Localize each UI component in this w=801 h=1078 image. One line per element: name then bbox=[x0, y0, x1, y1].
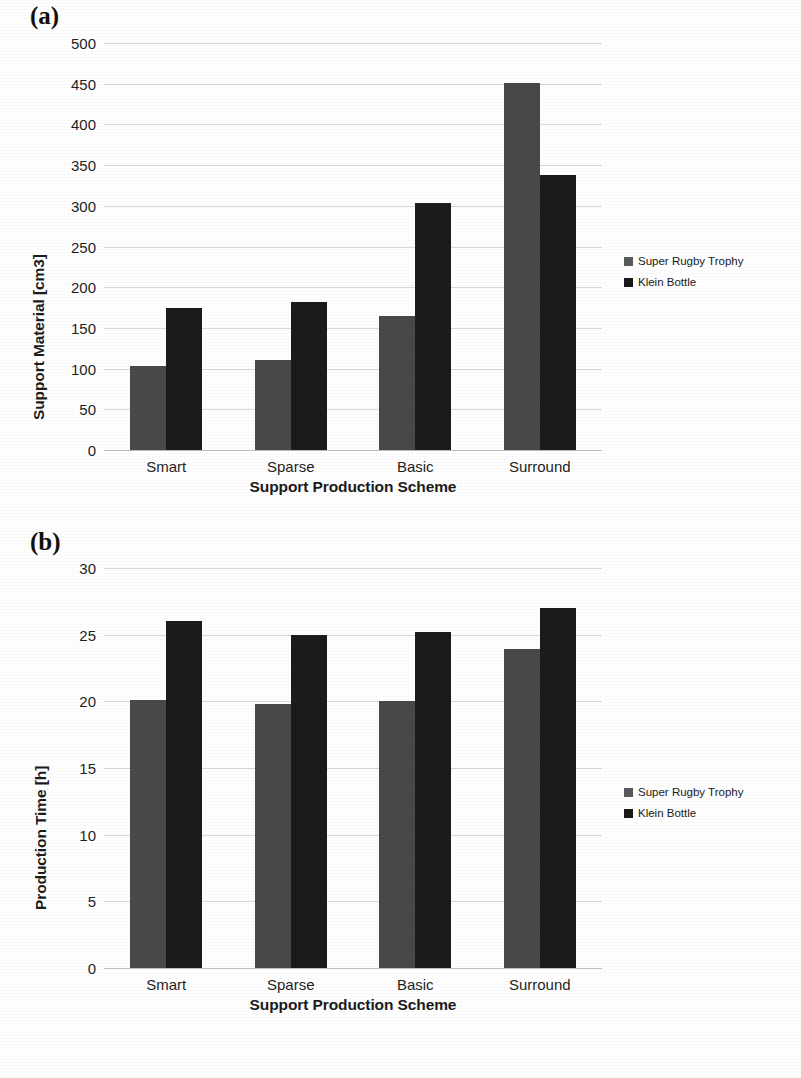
bar bbox=[166, 621, 202, 968]
y-tick-label: 150 bbox=[52, 319, 96, 336]
legend-label: Super Rugby Trophy bbox=[638, 253, 743, 270]
panel-b-x-axis-title: Support Production Scheme bbox=[104, 996, 602, 1014]
x-tick-label: Smart bbox=[104, 976, 229, 993]
panel-b-plot-area bbox=[104, 568, 602, 968]
panel-a-y-axis-title: Support Material [cm3] bbox=[30, 254, 48, 420]
bar bbox=[291, 302, 327, 450]
legend-label: Klein Bottle bbox=[638, 805, 696, 822]
y-tick-label: 50 bbox=[52, 401, 96, 418]
y-tick-label: 250 bbox=[52, 238, 96, 255]
panel-b-y-axis-ticks: 051015202530 bbox=[56, 520, 96, 521]
bar bbox=[415, 203, 451, 450]
legend-item: Klein Bottle bbox=[624, 274, 743, 291]
y-tick-label: 300 bbox=[52, 197, 96, 214]
legend-swatch-icon bbox=[624, 788, 633, 797]
x-axis-line bbox=[104, 450, 602, 451]
bar bbox=[130, 700, 166, 968]
panel-a-legend: Super Rugby TrophyKlein Bottle bbox=[624, 253, 743, 295]
y-tick-label: 20 bbox=[56, 693, 96, 710]
legend-item: Klein Bottle bbox=[624, 805, 743, 822]
panel-a-x-axis-title: Support Production Scheme bbox=[104, 478, 602, 496]
panel-b: (b) Production Time [h] 051015202530 Sma… bbox=[0, 520, 801, 1078]
y-tick-label: 10 bbox=[56, 826, 96, 843]
legend-swatch-icon bbox=[624, 257, 633, 266]
legend-label: Super Rugby Trophy bbox=[638, 784, 743, 801]
bar bbox=[379, 316, 415, 450]
panel-a-plot-area bbox=[104, 43, 602, 450]
x-tick-label: Smart bbox=[104, 458, 229, 475]
bar bbox=[255, 360, 291, 450]
y-tick-label: 350 bbox=[52, 157, 96, 174]
y-tick-label: 500 bbox=[52, 35, 96, 52]
y-tick-label: 100 bbox=[52, 360, 96, 377]
legend-item: Super Rugby Trophy bbox=[624, 253, 743, 270]
y-tick-label: 30 bbox=[56, 560, 96, 577]
panel-a-label: (a) bbox=[30, 2, 59, 30]
bar bbox=[540, 608, 576, 968]
x-tick-label: Sparse bbox=[229, 458, 354, 475]
y-tick-label: 25 bbox=[56, 626, 96, 643]
panel-a-y-axis-ticks: 050100150200250300350400450500 bbox=[52, 0, 96, 1]
gridline bbox=[104, 43, 602, 44]
bar bbox=[540, 175, 576, 450]
gridline bbox=[104, 568, 602, 569]
legend-swatch-icon bbox=[624, 278, 633, 287]
x-tick-label: Basic bbox=[353, 458, 478, 475]
y-tick-label: 5 bbox=[56, 893, 96, 910]
bar bbox=[504, 83, 540, 450]
bar bbox=[379, 701, 415, 968]
y-tick-label: 0 bbox=[52, 442, 96, 459]
x-tick-label: Surround bbox=[478, 458, 603, 475]
bar bbox=[504, 649, 540, 968]
y-tick-label: 450 bbox=[52, 75, 96, 92]
panel-b-label: (b) bbox=[30, 528, 61, 556]
bar bbox=[291, 635, 327, 968]
bar bbox=[255, 704, 291, 968]
y-tick-label: 200 bbox=[52, 279, 96, 296]
y-tick-label: 15 bbox=[56, 760, 96, 777]
panel-b-y-axis-title: Production Time [h] bbox=[32, 766, 50, 910]
legend-item: Super Rugby Trophy bbox=[624, 784, 743, 801]
x-tick-label: Basic bbox=[353, 976, 478, 993]
bar bbox=[130, 366, 166, 450]
bar bbox=[415, 632, 451, 968]
x-tick-label: Sparse bbox=[229, 976, 354, 993]
figure-page: { "figure": { "panel_a_label": "(a)", "p… bbox=[0, 0, 801, 1078]
panel-a: (a) Support Material [cm3] 0501001502002… bbox=[0, 0, 801, 520]
legend-label: Klein Bottle bbox=[638, 274, 696, 291]
y-tick-label: 0 bbox=[56, 960, 96, 977]
y-tick-label: 400 bbox=[52, 116, 96, 133]
bar bbox=[166, 308, 202, 450]
legend-swatch-icon bbox=[624, 809, 633, 818]
x-tick-label: Surround bbox=[478, 976, 603, 993]
panel-b-legend: Super Rugby TrophyKlein Bottle bbox=[624, 784, 743, 826]
x-axis-line bbox=[104, 968, 602, 969]
